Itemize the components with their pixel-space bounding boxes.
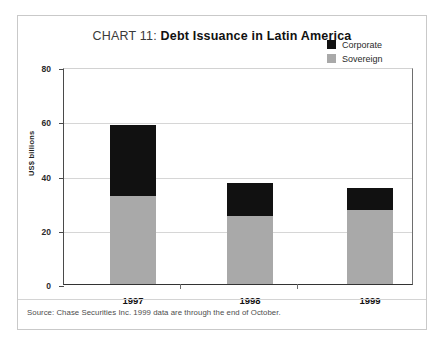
y-tick-label-0: 0 (46, 281, 51, 291)
x-tick-sep-1 (180, 284, 181, 289)
bar-segment-corporate-1997[interactable] (110, 125, 156, 196)
x-tick-sep-2 (297, 284, 298, 289)
y-tick-label-60: 60 (42, 118, 51, 128)
legend-label-corporate: Corporate (342, 40, 382, 50)
y-axis-title: US$ billions (27, 131, 36, 176)
y-tick-60: 60 (59, 123, 64, 124)
legend-swatch-icon-sovereign (327, 54, 336, 63)
y-tick-20: 20 (59, 232, 64, 233)
x-tick-label-1999: 1999 (347, 295, 393, 306)
bar-segment-sovereign-1997[interactable] (110, 196, 156, 284)
bar-segment-sovereign-1998[interactable] (227, 216, 273, 284)
legend-item-corporate[interactable]: Corporate (327, 38, 383, 51)
x-tick-label-1997: 1997 (110, 295, 156, 306)
title-main: Debt Issuance in Latin America (161, 29, 352, 43)
legend-label-sovereign: Sovereign (342, 54, 383, 64)
bar-group-1998[interactable]: 1998 (227, 183, 273, 284)
y-tick-0: 0 (59, 286, 64, 287)
source-note: Source: Chase Securities Inc. 1999 data … (27, 308, 281, 317)
source-divider (18, 299, 426, 300)
legend-item-sovereign[interactable]: Sovereign (327, 52, 383, 65)
bar-segment-corporate-1999[interactable] (347, 188, 393, 210)
y-tick-label-20: 20 (42, 227, 51, 237)
bar-segment-corporate-1998[interactable] (227, 183, 273, 216)
bar-group-1999[interactable]: 1999 (347, 188, 393, 284)
y-tick-80: 80 (59, 69, 64, 70)
legend-swatch-icon-corporate (327, 40, 336, 49)
bar-group-1997[interactable]: 1997 (110, 125, 156, 284)
y-tick-40: 40 (59, 178, 64, 179)
chart-card: CHART 11: Debt Issuance in Latin America… (17, 15, 427, 330)
plot-area: 80 60 40 20 0 1997 1998 (63, 68, 413, 285)
title-prefix: CHART 11: (92, 29, 156, 43)
x-tick-label-1998: 1998 (227, 295, 273, 306)
y-tick-label-80: 80 (42, 64, 51, 74)
bar-segment-sovereign-1999[interactable] (347, 210, 393, 284)
chart-legend: Corporate Sovereign (327, 38, 383, 66)
y-tick-label-40: 40 (42, 173, 51, 183)
